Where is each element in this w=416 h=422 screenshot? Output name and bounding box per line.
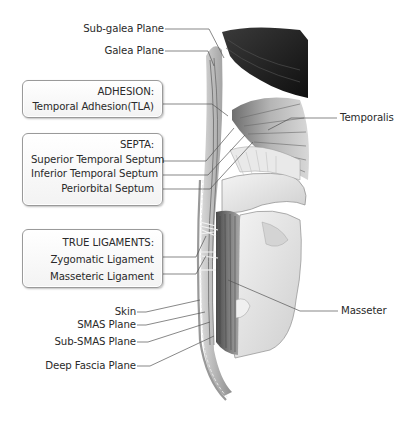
- label-zygomatic-ligament: Zygomatic Ligament: [31, 251, 154, 268]
- hair: [222, 27, 308, 98]
- label-temporalis: Temporalis: [340, 111, 394, 125]
- label-sub-galea-plane: Sub-galea Plane: [60, 22, 164, 36]
- label-masseter: Masseter: [341, 304, 387, 318]
- label-sub-smas-plane: Sub-SMAS Plane: [20, 335, 136, 349]
- box-adhesion-heading: ADHESION:: [31, 85, 154, 100]
- box-true-ligaments-heading: TRUE LIGAMENTS:: [31, 235, 154, 251]
- label-skin: Skin: [40, 305, 136, 319]
- box-septa: SEPTA: Superior Temporal Septum Inferior…: [22, 133, 163, 206]
- mandible: [231, 211, 302, 358]
- label-deep-fascia-plane: Deep Fascia Plane: [10, 359, 136, 373]
- box-adhesion: ADHESION: Temporal Adhesion(TLA): [22, 80, 163, 118]
- label-masseteric-ligament: Masseteric Ligament: [31, 268, 154, 285]
- label-galea-plane: Galea Plane: [60, 44, 164, 58]
- label-inferior-temporal-septum: Inferior Temporal Septum: [31, 167, 154, 182]
- label-superior-temporal-septum: Superior Temporal Septum: [31, 153, 154, 168]
- diagram-canvas: Sub-galea Plane Galea Plane ADHESION: Te…: [0, 0, 416, 422]
- box-true-ligaments: TRUE LIGAMENTS: Zygomatic Ligament Masse…: [22, 229, 163, 288]
- box-septa-heading: SEPTA:: [31, 138, 154, 153]
- label-temporal-adhesion: Temporal Adhesion(TLA): [31, 100, 154, 115]
- label-smas-plane: SMAS Plane: [40, 318, 136, 332]
- label-periorbital-septum: Periorbital Septum: [31, 182, 154, 197]
